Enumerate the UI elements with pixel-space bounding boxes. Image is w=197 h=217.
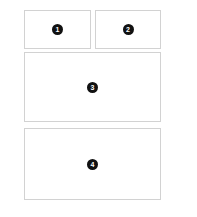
wireframe-canvas: 1 2 3 4 xyxy=(0,0,197,217)
panel-badge-2: 2 xyxy=(123,24,134,35)
panel-badge-4: 4 xyxy=(87,159,98,170)
panel-region-2[interactable]: 2 xyxy=(95,10,161,49)
panel-region-3[interactable]: 3 xyxy=(24,52,161,122)
panel-badge-1: 1 xyxy=(52,24,63,35)
panel-region-4[interactable]: 4 xyxy=(24,128,161,200)
panel-region-1[interactable]: 1 xyxy=(24,10,91,49)
panel-badge-3: 3 xyxy=(87,82,98,93)
